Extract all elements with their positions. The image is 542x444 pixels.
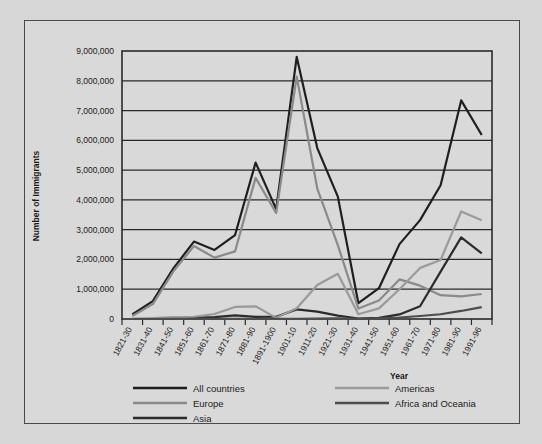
- x-tick-label: 1991-96: [460, 325, 484, 357]
- y-axis-title: Number of Immigrants: [31, 150, 41, 241]
- y-tick-label: 8,000,000: [76, 76, 114, 86]
- y-tick-label: 7,000,000: [76, 106, 114, 116]
- legend-label: Europe: [193, 398, 224, 409]
- y-tick-label: 3,000,000: [76, 225, 114, 235]
- series-line-asia: [132, 237, 481, 319]
- immigration-line-chart: Number of Immigrants 9,000,0008,000,0007…: [25, 21, 519, 423]
- gridlines: [122, 51, 492, 289]
- legend-label: Asia: [193, 413, 212, 424]
- x-axis-tick-labels: 1821-301831-401841-501851-601861-701871-…: [111, 325, 484, 366]
- series-line-europe: [132, 77, 481, 316]
- legend-left-column: All countriesEuropeAsia: [133, 383, 245, 424]
- y-tick-label: 0: [109, 314, 114, 324]
- x-axis-title: Year: [390, 371, 409, 381]
- y-tick-label: 5,000,000: [76, 165, 114, 175]
- series-line-americas: [132, 212, 481, 319]
- y-tick-label: 6,000,000: [76, 135, 114, 145]
- legend-right-column: AmericasAfrica and Oceania: [335, 383, 477, 409]
- chart-figure: Number of Immigrants 9,000,0008,000,0007…: [24, 20, 520, 424]
- y-tick-label: 2,000,000: [76, 254, 114, 264]
- legend-label: All countries: [193, 383, 245, 394]
- y-tick-label: 1,000,000: [76, 284, 114, 294]
- y-axis-tick-labels: 9,000,0008,000,0007,000,0006,000,0005,00…: [76, 46, 114, 324]
- y-tick-label: 9,000,000: [76, 46, 114, 56]
- y-tick-label: 4,000,000: [76, 195, 114, 205]
- data-series-lines: [132, 57, 481, 319]
- legend-label: Americas: [395, 383, 435, 394]
- series-line-all-countries: [132, 57, 481, 315]
- legend-label: Africa and Oceania: [395, 398, 477, 409]
